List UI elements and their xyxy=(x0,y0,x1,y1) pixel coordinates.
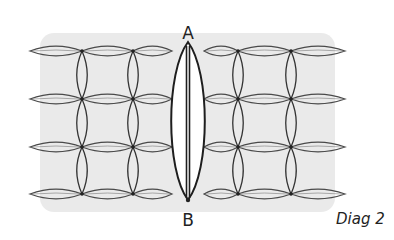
stitch-node xyxy=(80,192,84,196)
diagram-caption: Diag 2 xyxy=(336,210,385,228)
stitch-node xyxy=(131,49,135,53)
stitch-node xyxy=(131,192,135,196)
stitch-node xyxy=(289,49,293,53)
stitch-node xyxy=(236,97,240,101)
stitch-node xyxy=(289,192,293,196)
stitch-node xyxy=(236,192,240,196)
stitch-diagram: A B Diag 2 xyxy=(0,0,394,240)
point-label-a: A xyxy=(182,23,194,43)
stitch-node xyxy=(131,145,135,149)
stitch-node xyxy=(80,97,84,101)
point-b-node xyxy=(186,198,190,202)
stitch-node xyxy=(236,145,240,149)
point-label-b: B xyxy=(182,210,194,230)
stitch-node xyxy=(80,49,84,53)
stitch-node xyxy=(289,145,293,149)
stitch-node xyxy=(289,97,293,101)
stitch-node xyxy=(80,145,84,149)
stitch-node xyxy=(131,97,135,101)
stitch-node xyxy=(236,49,240,53)
